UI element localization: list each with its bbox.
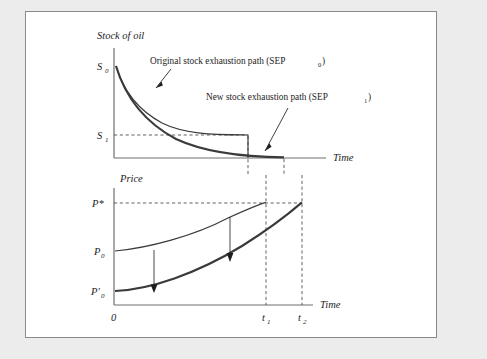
annotation-sep0-text: Original stock exhaustion path (SEP (150, 56, 285, 67)
bottom-x-axis-label: Time (320, 299, 341, 310)
shift-arrow-left-head (151, 284, 158, 293)
top-ytick-s0: S 0 (97, 61, 109, 75)
annotation-sep0-tail: ) (322, 56, 325, 67)
top-x-axis-label: Time (333, 152, 354, 163)
bottom-ytick-p0prime: P′ 0 (90, 286, 105, 300)
p0prime-label: P′ (90, 286, 100, 297)
t2-subscript: 2 (303, 318, 307, 326)
top-y-axis-label: Stock of oil (97, 30, 144, 41)
t2-label: t (298, 312, 302, 323)
annotation-sep1-text: New stock exhaustion path (SEP (206, 92, 328, 103)
shift-arrow-right-head (227, 253, 234, 262)
top-ytick-s1: S 1 (97, 130, 109, 144)
annotation-sep0-leader (156, 69, 171, 88)
annotation-sep1-tail: ) (368, 92, 371, 103)
t1-subscript: 1 (267, 318, 271, 326)
bottom-ytick-p0: P 0 (93, 246, 105, 260)
shift-arrow-right (227, 217, 234, 262)
annotation-sep0-arrowhead (156, 81, 163, 88)
p0prime-subscript: 0 (101, 292, 105, 300)
t1-label: t (262, 312, 266, 323)
s0-label: S (97, 61, 103, 72)
top-panel: S 0 S 1 Stock of oil Time Original stock… (97, 30, 371, 175)
bottom-xtick-t1: t 1 (262, 312, 271, 326)
economics-diagram: S 0 S 1 Stock of oil Time Original stock… (26, 12, 436, 337)
annotation-sep1-subscript: 1 (364, 97, 367, 104)
annotation-sep1: New stock exhaustion path (SEP 1 ) (206, 92, 371, 151)
curve-price-original (115, 202, 266, 251)
annotation-sep1-leader (265, 108, 288, 151)
annotation-sep0: Original stock exhaustion path (SEP 0 ) (150, 56, 325, 88)
bottom-xtick-zero: 0 (111, 312, 117, 323)
s1-subscript: 1 (105, 136, 109, 144)
zero-label: 0 (111, 312, 117, 323)
figure-frame: S 0 S 1 Stock of oil Time Original stock… (25, 11, 437, 338)
curve-sep0 (116, 66, 248, 158)
p0-label: P (93, 246, 101, 257)
bottom-panel: P* P 0 P′ 0 0 t 1 t 2 Price (90, 173, 341, 326)
shift-arrow-left (151, 250, 158, 293)
pstar-label: P* (91, 198, 104, 209)
curve-sep1 (116, 66, 284, 157)
s0-subscript: 0 (105, 67, 109, 75)
bottom-y-axis-label: Price (119, 173, 143, 184)
s1-label: S (97, 130, 103, 141)
bottom-xtick-t2: t 2 (298, 312, 307, 326)
bottom-ytick-pstar: P* (91, 198, 104, 209)
p0-subscript: 0 (101, 252, 105, 260)
